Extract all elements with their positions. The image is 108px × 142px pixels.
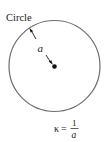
formula-denominator: a [72,130,77,140]
circle-curvature-diagram: Circle a κ = 1 a [0,0,108,142]
kappa-symbol: κ [54,123,59,134]
center-point [52,64,57,69]
radius-label: a [38,42,44,54]
circle-label: Circle [6,12,32,23]
curvature-formula: κ = 1 a [54,118,79,140]
equals-sign: = [61,123,67,134]
formula-numerator: 1 [72,118,77,128]
